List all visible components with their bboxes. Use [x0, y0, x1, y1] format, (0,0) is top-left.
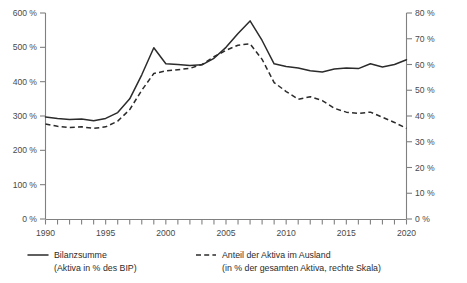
y-tick-label-left: 500 %	[13, 42, 38, 52]
x-tick-label: 2015	[337, 228, 356, 238]
legend-title-1: Anteil der Aktiva im Ausland	[222, 250, 331, 260]
legend-subtitle-0: (Aktiva in % des BIP)	[54, 263, 137, 273]
y-tick-label-right: 10 %	[415, 188, 435, 198]
axis-group	[46, 13, 407, 220]
y-tick-label-left: 100 %	[13, 180, 38, 190]
y-tick-label-left: 300 %	[13, 111, 38, 121]
x-tick-label: 2020	[397, 228, 416, 238]
chart-legend: Bilanzsumme (Aktiva in % des BIP) Anteil…	[28, 250, 381, 273]
y-tick-label-right: 60 %	[415, 60, 435, 70]
line-chart: 0 %100 %200 %300 %400 %500 %600 % 0 %10 …	[0, 0, 467, 283]
y-tick-label-right: 40 %	[415, 111, 435, 121]
x-tick-label: 1990	[36, 228, 55, 238]
series-line-bilanzsumme	[46, 21, 407, 121]
y-tick-label-left: 400 %	[13, 77, 38, 87]
y-axis-left-ticks: 0 %100 %200 %300 %400 %500 %600 %	[13, 8, 46, 224]
y-tick-label-right: 80 %	[415, 8, 435, 18]
legend-title-0: Bilanzsumme	[54, 250, 107, 260]
y-tick-label-right: 0 %	[415, 214, 430, 224]
x-tick-label: 2005	[216, 228, 235, 238]
y-tick-label-right: 70 %	[415, 34, 435, 44]
chart-container: 0 %100 %200 %300 %400 %500 %600 % 0 %10 …	[0, 0, 467, 283]
legend-subtitle-1: (in % der gesamten Aktiva, rechte Skala)	[222, 263, 381, 273]
y-tick-label-left: 0 %	[22, 214, 37, 224]
x-tick-label: 2010	[277, 228, 296, 238]
x-axis-ticks: 1990199520002005201020152020	[36, 220, 416, 239]
y-tick-label-right: 50 %	[415, 85, 435, 95]
x-tick-label: 2000	[156, 228, 175, 238]
y-tick-label-left: 600 %	[13, 8, 38, 18]
y-tick-label-right: 20 %	[415, 163, 435, 173]
y-tick-label-left: 200 %	[13, 145, 38, 155]
x-tick-label: 1995	[96, 228, 115, 238]
series-line-anteil-aktiva-ausland	[46, 44, 407, 128]
y-tick-label-right: 30 %	[415, 137, 435, 147]
y-axis-right-ticks: 0 %10 %20 %30 %40 %50 %60 %70 %80 %	[407, 8, 435, 224]
